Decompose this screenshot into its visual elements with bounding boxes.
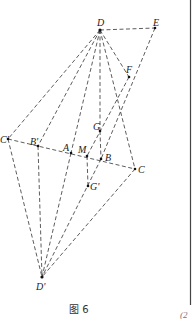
label-D: D <box>96 17 105 28</box>
label-M: M <box>77 144 87 155</box>
point-C <box>134 168 137 171</box>
label-G: G <box>93 121 100 132</box>
segment-D-A <box>71 30 100 153</box>
point-F <box>128 76 131 79</box>
point-Dp <box>40 275 43 278</box>
point-D <box>98 28 101 31</box>
segment-E-B <box>101 28 155 159</box>
segment-D-E <box>100 28 155 30</box>
segment-G-B <box>100 131 101 159</box>
label-B: B <box>105 152 111 163</box>
label-Dp: D' <box>35 281 46 292</box>
label-Cp: C' <box>0 134 10 145</box>
point-labels: D E F G C' B' A M B C G' D' <box>0 17 159 292</box>
segment-D-Bp <box>38 30 100 146</box>
figure-caption: 图 6 <box>69 304 89 315</box>
segment-M-Gp <box>87 156 88 186</box>
label-A: A <box>62 142 70 153</box>
label-C: C <box>138 164 145 175</box>
label-Gp: G' <box>90 181 100 192</box>
geometry-figure: D E F G C' B' A M B C G' D' 图 6 (2 <box>0 0 195 319</box>
point-Gp <box>87 185 90 188</box>
label-E: E <box>152 17 159 28</box>
point-M <box>86 155 89 158</box>
segment-A-Dp <box>42 153 71 277</box>
edge-fragment-text: (2 <box>180 310 188 319</box>
segment-D-Cp <box>8 30 100 139</box>
segment-Cp-Dp <box>8 139 42 277</box>
segment-F-M <box>87 77 129 156</box>
label-F: F <box>125 64 133 75</box>
point-A <box>70 152 73 155</box>
segment-B-Dp <box>42 159 101 277</box>
point-B <box>100 158 103 161</box>
segment-D-F <box>100 30 129 77</box>
segment-Bp-Dp <box>38 146 42 277</box>
label-Bp: B' <box>30 136 39 147</box>
